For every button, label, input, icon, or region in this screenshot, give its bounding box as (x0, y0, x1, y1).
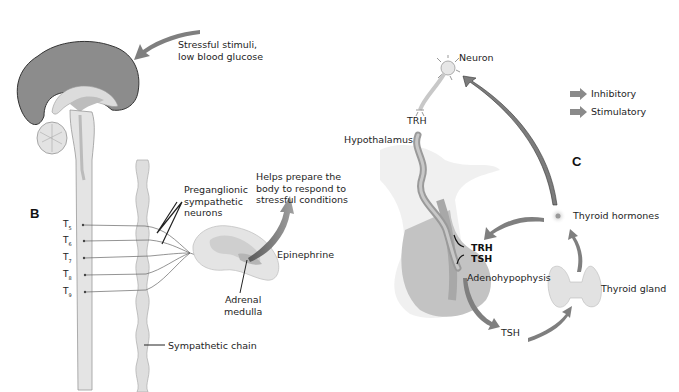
helps-line3: stressful conditions (256, 194, 348, 206)
adrenal-line1: Adrenal (224, 294, 262, 306)
legend-item-inhibitory: Inhibitory (570, 88, 636, 100)
sympathetic-chain-label: Sympathetic chain (168, 340, 257, 352)
t9-sub: 9 (69, 292, 72, 298)
feedback-arrow-to-pituitary (484, 217, 544, 240)
legend-item-stimulatory: Stimulatory (570, 106, 646, 118)
stimulatory-arrow-icon (570, 106, 587, 118)
spinal-level-t6: T6 (63, 235, 72, 247)
legend-label-stimulatory: Stimulatory (591, 106, 646, 118)
helps-line1: Helps prepare the (256, 171, 348, 183)
spinal-level-t9: T9 (63, 286, 72, 298)
tsh-inner-label: TSH (471, 253, 492, 265)
thyroid-gland-label: Thyroid gland (601, 283, 666, 295)
preganglionic-line3: neurons (184, 207, 248, 219)
trh-inner-label: TRH (471, 242, 493, 254)
helps-line2: body to respond to (256, 183, 348, 195)
spinal-level-t7: T7 (63, 252, 72, 264)
preganglionic-line2: sympathetic (184, 196, 248, 208)
legend-label-inhibitory: Inhibitory (591, 88, 636, 100)
adrenal-gland-illustration (193, 226, 279, 280)
preganglionic-label: Preganglionic sympathetic neurons (184, 184, 248, 219)
trh-top-label: TRH (407, 115, 427, 127)
adenohypophysis-label: Adenohypophysis (467, 272, 551, 284)
panel-label-c: C (572, 154, 581, 169)
thyroid-hormones-label: Thyroid hormones (573, 210, 659, 222)
panel-label-b: B (30, 206, 39, 221)
t8-sub: 8 (69, 275, 72, 281)
stressful-stimuli-label: Stressful stimuli, low blood glucose (178, 39, 263, 62)
epinephrine-label: Epinephrine (277, 249, 334, 261)
tsh-bottom-label: TSH (501, 327, 520, 339)
adrenal-line2: medulla (224, 306, 262, 318)
sympathetic-chain-illustration (136, 160, 149, 392)
adrenal-medulla-label: Adrenal medulla (224, 294, 262, 317)
feedback-arrow-to-neuron (463, 76, 557, 205)
stressful-stimuli-line1: Stressful stimuli, (178, 39, 263, 51)
t7-sub: 7 (69, 258, 72, 264)
hypothalamus-label: Hypothalamus (344, 134, 413, 146)
neuron-label: Neuron (459, 52, 494, 64)
stressful-stimuli-line2: low blood glucose (178, 51, 263, 63)
neuron-illustration (416, 55, 460, 116)
spinal-level-t5: T5 (63, 219, 72, 231)
arrow-to-thyroid-hormones (568, 229, 582, 272)
spinal-level-t8: T8 (63, 269, 72, 281)
t6-sub: 6 (69, 241, 72, 247)
inhibitory-arrow-icon (570, 88, 587, 100)
helps-prepare-label: Helps prepare the body to respond to str… (256, 171, 348, 206)
t5-sub: 5 (69, 225, 72, 231)
thyroid-gland-illustration (548, 266, 601, 307)
arrow-to-thyroid (528, 306, 572, 342)
preganglionic-line1: Preganglionic (184, 184, 248, 196)
